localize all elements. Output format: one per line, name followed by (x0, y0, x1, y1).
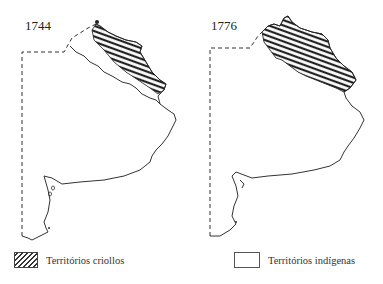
legend-criollos-label: Territórios criollos (46, 255, 124, 266)
map-1744-coastline (22, 24, 176, 240)
map-1776 (210, 16, 364, 236)
map-1776-dashed-border (210, 32, 262, 236)
legend-item-indigenas: Territórios indígenas (234, 252, 355, 268)
map-1776-criollo-territory (262, 16, 356, 92)
legend-item-criollos: Territórios criollos (14, 252, 124, 268)
legend-indigenas-label: Territórios indígenas (268, 255, 355, 266)
maps-canvas (0, 0, 383, 284)
empty-swatch-icon (234, 252, 260, 268)
hatch-swatch-icon (14, 252, 38, 268)
map-1744-dashed-border (22, 24, 96, 236)
map-1744 (22, 20, 176, 240)
